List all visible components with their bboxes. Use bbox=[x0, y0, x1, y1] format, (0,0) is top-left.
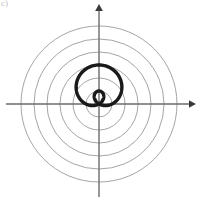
polar-plot-canvas bbox=[0, 0, 198, 203]
polar-plot-figure: c) bbox=[0, 0, 198, 203]
vertical-axis-arrowhead bbox=[95, 4, 103, 11]
horizontal-axis-arrowhead bbox=[189, 100, 196, 108]
